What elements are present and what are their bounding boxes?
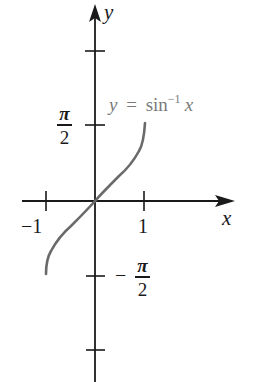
x-tick-label-neg-one: −1 <box>21 216 42 236</box>
arcsin-graph <box>0 0 253 382</box>
curve-label-exponent: −1 <box>168 92 181 106</box>
pi-half-numerator: π <box>59 104 69 123</box>
curve-label-fn: sin <box>146 94 168 115</box>
fraction-bar <box>135 276 150 278</box>
x-tick-label-one: 1 <box>138 216 148 236</box>
y-axis-label: y <box>104 2 113 23</box>
neg-pi-half-numerator: π <box>137 256 147 275</box>
pi-half-denominator: 2 <box>60 128 70 147</box>
x-axis-label: x <box>222 208 231 229</box>
neg-pi-half-denominator: 2 <box>138 280 148 299</box>
curve-label-x: x <box>181 94 193 115</box>
y-tick-label-neg-pi-half: π 2 <box>135 256 150 299</box>
y-tick-label-pi-half: π 2 <box>57 104 72 147</box>
fraction-bar <box>57 124 72 126</box>
curve-label-equals: = <box>117 94 145 115</box>
neg-sign: − <box>115 265 126 285</box>
curve-annotation: y = sin−1x <box>109 93 193 114</box>
